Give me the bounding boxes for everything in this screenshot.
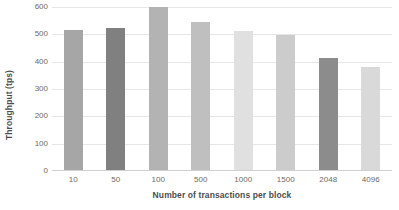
bars-container	[52, 7, 392, 170]
y-axis-tick-label: 500	[18, 30, 48, 38]
y-axis-tick-label: 0	[18, 167, 48, 175]
bar[interactable]	[191, 22, 210, 170]
x-axis-tick-label: 1500	[265, 174, 308, 186]
y-axis-tick-label: 100	[18, 140, 48, 148]
bar[interactable]	[276, 35, 295, 170]
bar-slot	[265, 7, 308, 170]
bar[interactable]	[361, 67, 380, 170]
y-axis-tick-label: 300	[18, 85, 48, 93]
x-axis-title: Number of transactions per block	[52, 190, 392, 200]
y-axis-tick-label: 200	[18, 112, 48, 120]
y-axis-tick-label: 400	[18, 58, 48, 66]
bar-slot	[137, 7, 180, 170]
bar-slot	[52, 7, 95, 170]
bar-slot	[307, 7, 350, 170]
bar-slot	[180, 7, 223, 170]
y-axis-title: Throughput (tps)	[0, 0, 18, 210]
x-axis-tick-labels: 10501005001000150020484096	[52, 174, 392, 186]
bar-slot	[222, 7, 265, 170]
plot-area	[52, 7, 392, 171]
x-axis-baseline	[52, 170, 392, 171]
bar[interactable]	[149, 7, 168, 170]
bar-chart: Throughput (tps) 0100200300400500600 105…	[0, 0, 399, 210]
x-axis-tick-label: 4096	[350, 174, 393, 186]
bar[interactable]	[319, 58, 338, 170]
x-axis-tick-label: 100	[137, 174, 180, 186]
bar-slot	[95, 7, 138, 170]
y-axis-tick-labels: 0100200300400500600	[18, 7, 48, 171]
bar[interactable]	[234, 31, 253, 170]
x-axis-tick-label: 1000	[222, 174, 265, 186]
bar-slot	[350, 7, 393, 170]
x-axis-tick-label: 50	[95, 174, 138, 186]
x-axis-tick-label: 2048	[307, 174, 350, 186]
y-axis-tick-label: 600	[18, 3, 48, 11]
bar[interactable]	[106, 28, 125, 170]
x-axis-tick-label: 10	[52, 174, 95, 186]
x-axis-tick-label: 500	[180, 174, 223, 186]
bar[interactable]	[64, 30, 83, 170]
